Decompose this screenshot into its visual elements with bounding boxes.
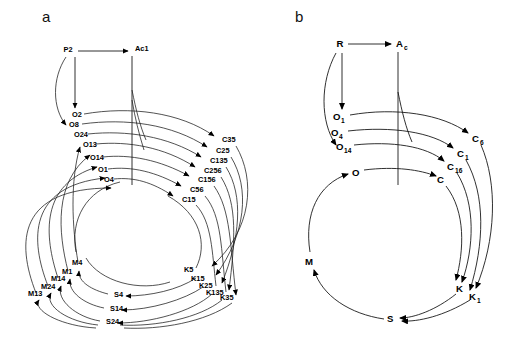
panel-a-m-labels: M4 M1 M14 M24 M13 <box>28 258 83 298</box>
inner-ring-left <box>75 182 120 252</box>
node-c16-b: C 16 <box>447 161 463 174</box>
edge-s4-to-m4 <box>79 271 108 294</box>
node-k-b-base: K <box>456 283 463 294</box>
node-c135: C135 <box>210 156 228 165</box>
node-o-b: O <box>352 167 360 178</box>
node-o8: O8 <box>69 120 79 129</box>
panel-a-s-labels: S4 S14 S24 <box>106 290 124 326</box>
edge-k35-tail <box>124 303 232 328</box>
edge-o14-to-c156 <box>103 156 189 176</box>
node-o24: O24 <box>74 130 89 139</box>
node-c1-b: C 1 <box>457 148 469 161</box>
edge-m4-to-o24 <box>73 147 80 262</box>
edge-c156-to-k35 <box>214 186 236 295</box>
edge-c256-to-k135 <box>221 177 234 290</box>
node-ac-sub: c <box>404 44 408 51</box>
edge-p2-to-o8 <box>56 57 67 125</box>
node-c256: C256 <box>204 166 222 175</box>
panel-b-letter: b <box>295 8 303 25</box>
edge-k135-tail <box>120 300 222 325</box>
edge-m1-to-o13 <box>61 155 90 271</box>
node-o14-b-base: O <box>336 141 344 152</box>
edge-s-to-m24 <box>50 293 98 325</box>
edge-k5-to-s4 <box>126 278 196 296</box>
edge-o8-to-c25 <box>82 122 207 147</box>
node-k1-b: K 1 <box>469 291 481 304</box>
edge-o-to-c <box>364 168 436 176</box>
node-o-b-base: O <box>352 167 360 178</box>
node-o1-b: O 1 <box>333 111 345 124</box>
edge-c1-to-k1b <box>466 160 481 290</box>
inner-ring-bottom <box>86 258 170 286</box>
node-c6-b-sub: 6 <box>480 139 484 146</box>
edge-k25-to-s24 <box>118 294 212 323</box>
node-k-b: K <box>456 283 463 294</box>
node-c1-b-base: C <box>457 148 464 159</box>
node-k35: K35 <box>220 293 234 302</box>
node-c156: C156 <box>198 175 216 184</box>
edge-o2-to-c35 <box>84 111 214 136</box>
node-o14-b-sub: 14 <box>344 147 352 154</box>
node-o14: O14 <box>90 153 105 162</box>
edge-c-to-k <box>446 186 462 280</box>
node-c16-b-base: C <box>447 161 454 172</box>
node-c6-b: C 6 <box>472 133 484 146</box>
node-ac1: Ac1 <box>135 44 149 53</box>
spine-flare-2 <box>132 100 144 150</box>
node-c15: C15 <box>182 195 196 204</box>
node-s-b: S <box>387 313 394 324</box>
edge-k1-to-s <box>402 300 470 321</box>
pathway-diagram: a P2 Ac1 <box>0 0 505 339</box>
node-c6-b-base: C <box>472 133 479 144</box>
node-c56: C56 <box>190 185 204 194</box>
node-k5: K5 <box>184 265 193 274</box>
inner-ring-right <box>168 196 201 268</box>
edge-m13-to-o4 <box>26 188 111 293</box>
node-o2: O2 <box>72 110 82 119</box>
edge-c135-to-k25 <box>222 167 238 283</box>
node-o4-b-base: O <box>331 127 339 138</box>
edge-k15-to-s14 <box>122 287 203 310</box>
edge-o1-to-c56 <box>108 168 181 186</box>
node-s24: S24 <box>106 317 120 326</box>
node-o13: O13 <box>83 140 97 149</box>
edge-c56-inner <box>205 196 226 292</box>
node-o4-b-sub: 4 <box>339 133 343 140</box>
node-ac: A c <box>396 38 408 51</box>
node-o1-b-base: O <box>333 111 341 122</box>
panel-b: b R A c <box>295 8 492 324</box>
node-m-b: M <box>305 256 313 267</box>
node-o14-b: O 14 <box>336 141 352 154</box>
edge-c6-to-k1 <box>476 145 492 288</box>
panel-a: a P2 Ac1 <box>26 8 248 328</box>
node-m4: M4 <box>72 258 83 267</box>
node-c-b: C <box>437 174 444 185</box>
node-m24: M24 <box>41 282 56 291</box>
edge-o14-to-c16 <box>354 144 444 161</box>
node-c1-b-sub: 1 <box>465 154 469 161</box>
panel-a-k-labels: K5 K15 K25 K135 K35 <box>184 265 234 302</box>
panel-b-k-labels: K K 1 <box>456 283 481 304</box>
node-o1-b-sub: 1 <box>341 117 345 124</box>
node-o1: O1 <box>98 165 108 174</box>
node-r: R <box>337 38 344 49</box>
node-m13: M13 <box>28 289 42 298</box>
node-p2: P2 <box>63 45 72 54</box>
edge-o4-to-c15 <box>114 179 173 196</box>
node-s14: S14 <box>110 304 124 313</box>
b-spine-flare-1 <box>398 92 412 142</box>
node-c35: C35 <box>222 135 236 144</box>
node-k1-b-base: K <box>469 291 476 302</box>
node-s4: S4 <box>114 290 124 299</box>
panel-a-o-labels: O2 O8 O24 O13 O14 O1 O4 <box>69 110 115 184</box>
node-c-b-base: C <box>437 174 444 185</box>
node-ac-base: A <box>396 38 403 49</box>
node-o4: O4 <box>104 175 115 184</box>
node-c16-b-sub: 16 <box>455 167 463 174</box>
edge-o13-to-c256 <box>96 143 195 167</box>
panel-b-c-labels: C 6 C 1 C 16 C <box>437 133 484 185</box>
node-c25: C25 <box>216 146 230 155</box>
node-o4-b: O 4 <box>331 127 343 140</box>
edge-m-to-o <box>309 174 348 252</box>
edge-k-to-s <box>400 294 456 318</box>
